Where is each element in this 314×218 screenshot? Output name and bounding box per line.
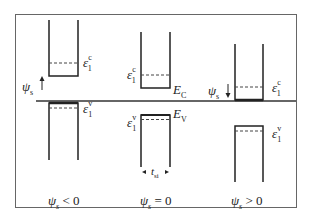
caption-relation: > 0 [242, 193, 262, 208]
level-sup: v [88, 99, 92, 108]
caption-symbol: ψ [231, 193, 239, 208]
conduction-well-middle [141, 32, 170, 88]
psi-s-label-right: ψs [208, 84, 219, 101]
thickness-sub: si [154, 172, 159, 180]
thickness-label: tsi [151, 166, 159, 180]
level-label-valence-left: εv1 [83, 102, 92, 119]
edge-sub: V [181, 115, 187, 124]
psi-symbol: ψ [208, 83, 216, 98]
caption-symbol: ψ [140, 193, 148, 208]
level-sup: c [132, 65, 136, 74]
level-sub: 1 [88, 110, 92, 119]
level-sup: c [277, 78, 281, 87]
edge-label-ec: EC [173, 83, 186, 100]
psi-sub: s [30, 88, 33, 97]
band-diagram [0, 0, 314, 218]
caption-zero: ψs = 0 [140, 194, 172, 211]
edge-label-ev: EV [173, 107, 187, 124]
caption-positive: ψs > 0 [231, 194, 263, 211]
psi-symbol: ψ [22, 79, 30, 94]
level-sub: 1 [277, 135, 281, 144]
conduction-well-left [49, 20, 78, 76]
level-label-conduction-right: εc1 [272, 81, 281, 98]
edge-sub: C [181, 91, 186, 100]
panel-zero [141, 32, 170, 174]
level-sup: v [277, 124, 281, 133]
caption-negative: ψs < 0 [48, 194, 80, 211]
panel-positive [226, 44, 264, 182]
valence-well-left [49, 103, 78, 160]
caption-relation: < 0 [59, 193, 79, 208]
arrow-down-icon [226, 84, 231, 98]
level-label-valence-right: εv1 [272, 127, 281, 144]
valence-well-right [235, 126, 263, 182]
edge-symbol: E [173, 106, 181, 121]
level-label-valence-middle: εv1 [127, 116, 136, 133]
level-sub: 1 [132, 76, 136, 85]
level-label-conduction-middle: εc1 [127, 68, 136, 85]
level-label-conduction-left: εc1 [83, 56, 92, 73]
arrow-up-icon [40, 76, 45, 90]
level-sup: v [132, 113, 136, 122]
level-sub: 1 [88, 64, 92, 73]
level-sup: c [88, 53, 92, 62]
level-sub: 1 [277, 89, 281, 98]
valence-well-middle [141, 115, 170, 167]
edge-symbol: E [173, 82, 181, 97]
panel-negative [40, 20, 79, 160]
caption-relation: = 0 [151, 193, 171, 208]
conduction-well-right [235, 44, 263, 100]
psi-s-label-left: ψs [22, 80, 33, 97]
level-sub: 1 [132, 124, 136, 133]
caption-symbol: ψ [48, 193, 56, 208]
psi-sub: s [216, 92, 219, 101]
